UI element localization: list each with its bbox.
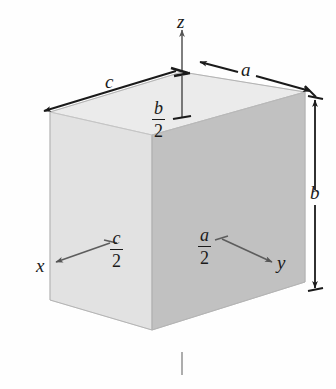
z-axis-label: z bbox=[177, 12, 184, 31]
b-half-fraction-label: b 2 bbox=[152, 99, 165, 140]
b-half-numerator: b bbox=[152, 99, 165, 118]
parallelepiped-diagram bbox=[0, 0, 336, 389]
y-axis-label: y bbox=[277, 253, 285, 272]
b-half-denominator: 2 bbox=[152, 121, 165, 140]
a-dimension-label: a bbox=[241, 60, 251, 79]
a-half-fraction-bar bbox=[198, 246, 211, 247]
c-half-fraction-bar bbox=[110, 249, 123, 250]
c-dimension-label: c bbox=[105, 72, 113, 91]
b-dimension-tick-bottom bbox=[308, 288, 323, 291]
b-half-fraction-bar bbox=[152, 119, 165, 120]
box-left-face bbox=[50, 112, 152, 330]
x-axis-label: x bbox=[36, 256, 44, 275]
c-half-denominator: 2 bbox=[110, 251, 123, 270]
a-dimension-line-left bbox=[200, 62, 238, 72]
a-half-numerator: a bbox=[198, 226, 211, 245]
c-half-fraction-label: c 2 bbox=[110, 229, 123, 270]
b-dimension-label: b bbox=[310, 183, 320, 202]
a-dimension-tick-right bbox=[305, 86, 316, 97]
a-half-denominator: 2 bbox=[198, 248, 211, 267]
figure-canvas: on of centro geometrical cen bbox=[0, 0, 336, 389]
a-half-fraction-label: a 2 bbox=[198, 226, 211, 267]
c-half-numerator: c bbox=[110, 229, 123, 248]
